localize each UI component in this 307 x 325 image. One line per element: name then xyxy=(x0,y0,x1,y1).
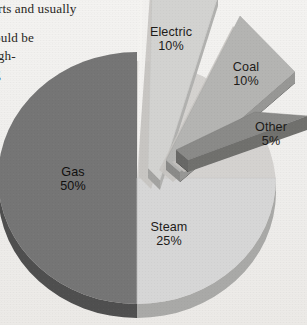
steam-slice-top[interactable] xyxy=(137,178,276,304)
gas-slice-top[interactable] xyxy=(0,52,137,304)
scanned-page: arts and usually ould be igh- g xyxy=(0,0,307,325)
pie-chart-svg xyxy=(0,0,307,325)
pie-chart: Electric 10% Coal 10% Other 5% Gas 50% S… xyxy=(0,0,307,325)
